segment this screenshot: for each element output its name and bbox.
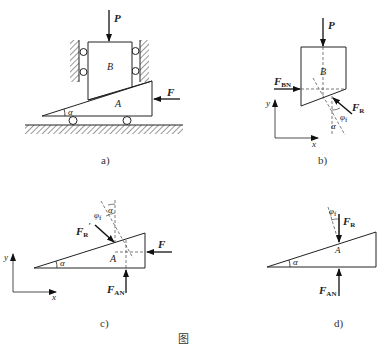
force-f-label: F — [157, 238, 166, 250]
force-r-prime-arrow — [95, 225, 114, 242]
force-p-label: P — [328, 19, 335, 31]
roller — [123, 117, 131, 125]
force-an-label: FAN — [106, 283, 124, 297]
wedge-a-label: A — [114, 98, 122, 109]
left-wall-hatch — [70, 40, 79, 82]
wedge-a-label: A — [334, 245, 341, 255]
roller — [80, 49, 87, 56]
caption-c: c) — [100, 317, 109, 330]
right-wall-hatch — [140, 40, 149, 82]
axis-x-label: x — [311, 139, 316, 149]
block-b-label: B — [107, 61, 113, 72]
panel-d: FR φf A α FAN d) — [267, 206, 376, 330]
angle-alpha-label: α — [68, 107, 73, 117]
force-r-label: FR — [351, 101, 365, 115]
force-r-prime-label: FR′ — [75, 222, 91, 239]
force-p-label: P — [114, 12, 121, 24]
angle-phi-label: φf — [329, 206, 337, 218]
panel-b: P B FBN FR φf α y x b) — [265, 18, 365, 167]
caption-d: d) — [334, 317, 344, 330]
figure-caption: 图 — [178, 333, 189, 344]
panel-c: FR′ φf α α A F FAN y x c) — [3, 200, 172, 330]
axis-x-label: x — [51, 292, 56, 302]
axis-y-label: y — [265, 98, 270, 108]
ground-hatch — [25, 125, 183, 134]
force-bn-label: FBN — [273, 75, 291, 89]
axis-y-label: y — [3, 252, 8, 262]
angle-phi-label: φf — [94, 210, 102, 222]
block-b-label: B — [320, 66, 326, 77]
force-r-label: FR — [342, 215, 356, 229]
force-an-label: FAN — [318, 284, 336, 298]
angle-phi-label: φf — [340, 112, 348, 124]
wedge-a — [34, 233, 145, 268]
angle-alpha-top-label: α — [108, 205, 113, 215]
caption-a: a) — [101, 154, 110, 167]
angle-alpha-label: α — [293, 257, 298, 267]
roller — [132, 68, 139, 75]
roller — [80, 69, 87, 76]
roller — [132, 48, 139, 55]
angle-alpha-label: α — [60, 258, 65, 268]
figure-canvas: P B A α F a) P B FBN FR φf α y x b) — [0, 0, 383, 344]
roller — [69, 117, 77, 125]
force-f-label: F — [166, 86, 175, 98]
panel-a: P B A α F a) — [25, 10, 183, 167]
wedge-a-label: A — [109, 253, 117, 264]
angle-alpha-label: α — [331, 121, 336, 131]
wedge-a — [267, 232, 376, 267]
caption-b: b) — [318, 154, 328, 167]
